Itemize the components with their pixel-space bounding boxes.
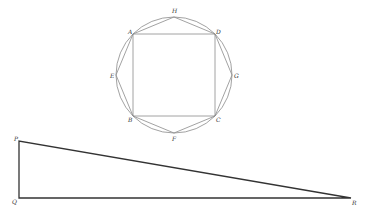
right-triangle-PQR — [19, 141, 351, 198]
label-G: G — [234, 72, 239, 79]
label-F: F — [171, 135, 177, 142]
label-B: B — [127, 116, 133, 123]
label-A: A — [127, 28, 133, 35]
label-P: P — [13, 135, 19, 142]
inscribed-square — [133, 34, 215, 116]
label-Q: Q — [12, 198, 17, 205]
label-D: D — [215, 28, 221, 35]
label-E: E — [109, 72, 115, 79]
label-H: H — [171, 7, 178, 14]
label-C: C — [216, 116, 221, 123]
label-R: R — [351, 199, 357, 206]
geometry-figure: H D G C F B E A P Q R — [0, 0, 376, 210]
